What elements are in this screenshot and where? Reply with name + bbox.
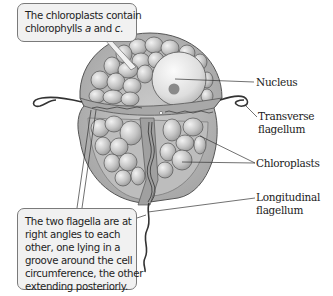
transverse-flagellum-right-loop [220,96,248,106]
callout-bottom-line: extending posteriorly. [25,280,136,293]
callout-bottom-line: right angles to each [25,228,136,241]
callout-top-line1: The chloroplasts contain [25,9,136,22]
callout-bottom-line: The two flagella are at [25,215,136,228]
callout-flagella-orientation: The two flagella are at right angles to … [17,208,137,290]
diagram-stage: The chloroplasts contain chlorophylls a … [0,0,333,296]
callout-bottom-line: groove around the cell [25,254,136,267]
callout-chloroplast-pigments: The chloroplasts contain chlorophylls a … [17,3,137,42]
callout-bottom-line: circumference, the other [25,267,136,280]
longitudinal-flagellum [144,203,149,272]
callout-bottom-line: other, one lying in a [25,241,136,254]
nucleolus [169,84,180,95]
label-nucleus: Nucleus [256,76,297,89]
label-transverse-flagellum: Transverse flagellum [258,110,314,136]
label-longitudinal-flagellum: Longitudinal flagellum [256,191,320,217]
label-chloroplasts: Chloroplasts [256,157,320,170]
transverse-flagellum-left-loop [34,97,83,106]
callout-top-line2: chlorophylls a and c. [25,22,136,35]
